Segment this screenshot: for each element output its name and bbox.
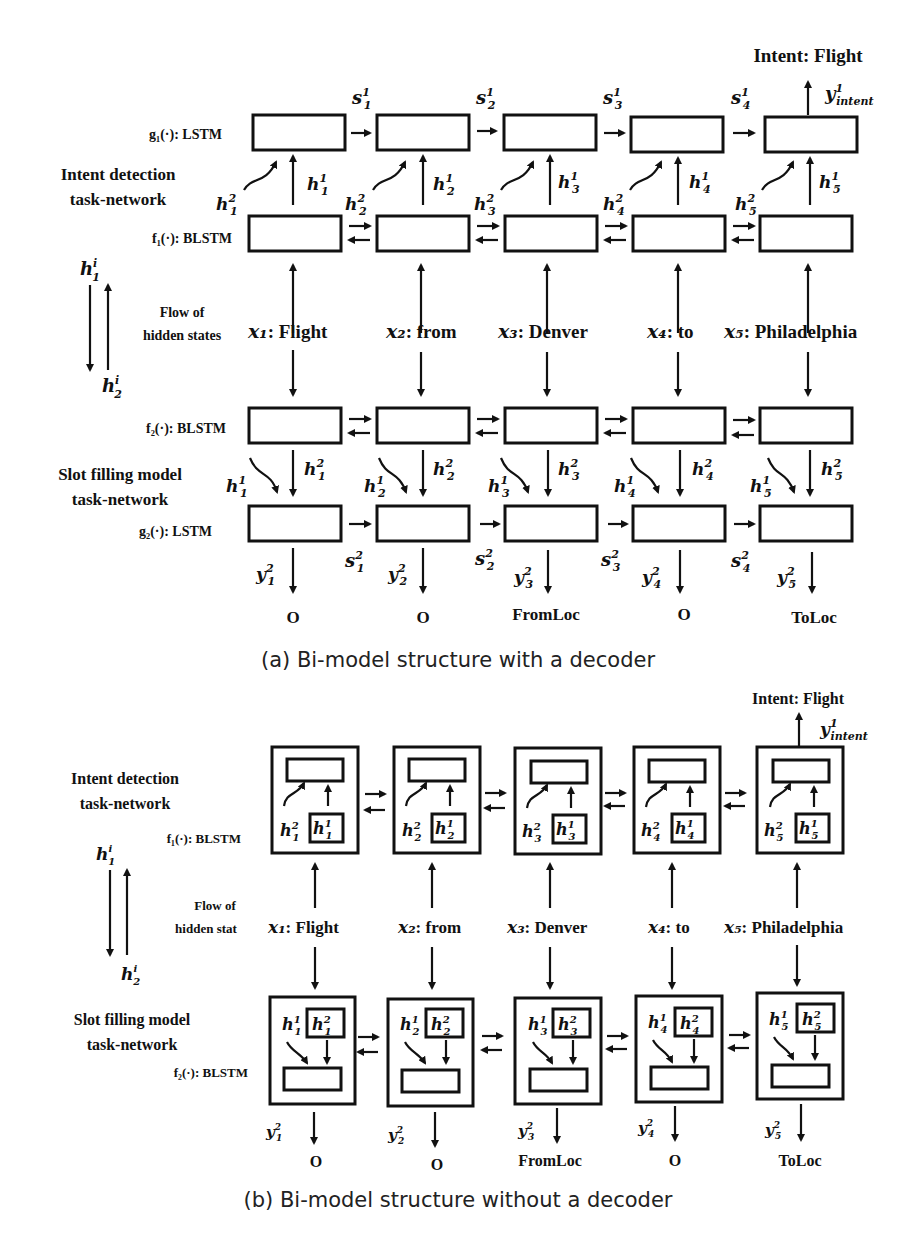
- intent-output-symbol-b: y1intent: [819, 717, 868, 743]
- svg-text:s21: s21: [344, 549, 364, 575]
- g2-lstm-cell: [760, 506, 852, 541]
- svg-text:ToLoc: ToLoc: [779, 1152, 822, 1169]
- h1-label-slot: h15: [750, 474, 772, 500]
- svg-text:y25: y25: [764, 1120, 781, 1141]
- input-tokens-b: x₁: Flight x₂: from x₃: Denver x₄: to x₅…: [267, 864, 844, 988]
- g1-lstm-label: g₁(·): LSTM: [149, 127, 222, 143]
- g2-lstm-label: g₂(·): LSTM: [139, 524, 212, 540]
- h1-label-slot: h12: [364, 474, 386, 500]
- h2-label-slot: h21: [304, 457, 326, 483]
- svg-text:O: O: [669, 1152, 681, 1169]
- figure-a: Intent: Flight y1intent g₁(·): LSTM Inte…: [58, 45, 873, 672]
- h1-label-slot: h13: [488, 474, 510, 500]
- slot-block-2: h12 h22: [388, 999, 473, 1106]
- f1-blstm-cell: [249, 216, 341, 251]
- slot-network-label-line1: Slot filling model: [58, 465, 182, 484]
- input-token: x₁: Flight: [247, 320, 328, 342]
- g2-lstm-cell: [249, 506, 341, 541]
- g2-lstm-cell: [633, 506, 725, 541]
- svg-text:O: O: [310, 1153, 322, 1170]
- flow-label-line2: hidden states: [143, 328, 222, 343]
- h1-curve-arrow: [768, 458, 794, 492]
- svg-text:O: O: [431, 1156, 443, 1173]
- slot-output: FromLoc: [512, 605, 580, 624]
- svg-text:h13: h13: [528, 1014, 548, 1037]
- svg-text:y21: y21: [265, 1122, 282, 1143]
- slot-network-label-b-line1: Slot filling model: [74, 1011, 191, 1029]
- intent-block-5: h25 h15: [757, 747, 843, 853]
- svg-text:h25: h25: [764, 820, 784, 843]
- f2-blstm-label-b: f₂(·): BLSTM: [174, 1065, 248, 1080]
- intent-network-label-b-line1: Intent detection: [71, 770, 179, 787]
- svg-text:h15: h15: [799, 818, 819, 841]
- f1-blstm-label: f₁(·): BLSTM: [152, 231, 232, 247]
- input-token: x₅: Philadelphia: [723, 320, 858, 342]
- h1-label: h13: [558, 170, 580, 196]
- g2-lstm-cell: [505, 506, 597, 541]
- svg-text:h14: h14: [648, 1012, 668, 1035]
- bi-model-diagram: Intent: Flight y1intent g₁(·): LSTM Inte…: [0, 0, 920, 1239]
- svg-text:h12: h12: [400, 1014, 420, 1037]
- slot-block-4: h14 h24: [636, 996, 722, 1102]
- figure-b: Intent: Flight y1intent Intent detection…: [71, 690, 868, 1212]
- svg-text:h13: h13: [556, 819, 576, 842]
- svg-text:s23: s23: [600, 548, 621, 574]
- svg-text:h25: h25: [802, 1009, 822, 1032]
- svg-text:h11: h11: [313, 818, 333, 841]
- svg-text:h21: h21: [280, 820, 300, 843]
- g1-lstm-cell: [253, 115, 345, 150]
- svg-text:h22: h22: [402, 820, 422, 843]
- intent-output-label-b: Intent: Flight: [752, 690, 845, 708]
- column-4: h14 h24 x₄: to h24 h14 y24 O: [603, 117, 725, 624]
- slot-network-label-b-line2: task-network: [87, 1036, 178, 1053]
- svg-text:h21: h21: [312, 1014, 332, 1037]
- input-token: x₃: Denver: [497, 320, 588, 342]
- f2-blstm-cell: [633, 408, 725, 443]
- intent-block-2: h22 h12: [394, 747, 480, 853]
- f1-blstm-cell: [505, 216, 597, 251]
- svg-text:h11: h11: [282, 1014, 302, 1037]
- column-2: h12 h22 x₂: from h22 h12 y22 O: [345, 115, 469, 627]
- h2-label: h23: [474, 192, 496, 218]
- f2-blstm-cell: [505, 408, 597, 443]
- svg-text:h24: h24: [680, 1013, 700, 1036]
- f2-blstm-cell: [760, 408, 852, 443]
- slot-output: ToLoc: [791, 608, 837, 627]
- y2-label: y21: [255, 562, 275, 588]
- f1-blstm-cell: [760, 216, 852, 251]
- h1-label: h12: [433, 172, 455, 198]
- y2-label: y25: [776, 565, 796, 591]
- intent-network-label-b-line2: task-network: [80, 795, 171, 812]
- intent-network-label-line2: task-network: [70, 190, 167, 209]
- h1-label: h14: [689, 170, 711, 196]
- intent-block-4: h24 h14: [634, 747, 720, 853]
- h2-label-slot: h25: [821, 457, 843, 483]
- f1-blstm-cell: [377, 216, 469, 251]
- svg-text:y23: y23: [517, 1121, 534, 1142]
- svg-text:h22: h22: [431, 1014, 451, 1037]
- h2-label: h22: [345, 192, 367, 218]
- flow-top-h-label: hi1: [80, 257, 100, 284]
- svg-text:h23: h23: [522, 821, 542, 844]
- slot-block-3: h13 h23: [515, 998, 601, 1104]
- h1-label: h11: [307, 172, 329, 198]
- f2-blstm-cell: [377, 408, 469, 443]
- svg-text:x₁: Flight: x₁: Flight: [267, 917, 339, 937]
- column-1: h11 h21 x₁: Flight h21 h11 y21 O: [216, 115, 345, 627]
- slot-network-label-line2: task-network: [72, 490, 169, 509]
- svg-text:s13: s13: [602, 86, 623, 112]
- svg-text:s24: s24: [730, 549, 750, 575]
- s1-labels: s11 s12 s13 s14: [351, 86, 750, 112]
- flow-top-h-label-b: hi1: [96, 843, 115, 867]
- svg-text:y22: y22: [387, 1125, 404, 1146]
- slot-output: O: [416, 608, 429, 627]
- slot-block-5: h15 h25: [757, 993, 843, 1099]
- g1-lstm-cell: [377, 115, 469, 150]
- g1-lstm-cell: [765, 117, 857, 152]
- f1-blstm-label-b: f₁(·): BLSTM: [167, 831, 241, 846]
- intent-blocks: h21 h11 h22 h12 h23: [272, 747, 843, 854]
- h2-curve-arrow: [244, 162, 276, 190]
- h1-label-slot: h11: [226, 474, 248, 500]
- svg-text:s14: s14: [730, 86, 750, 112]
- h2-curve-arrow: [373, 162, 405, 190]
